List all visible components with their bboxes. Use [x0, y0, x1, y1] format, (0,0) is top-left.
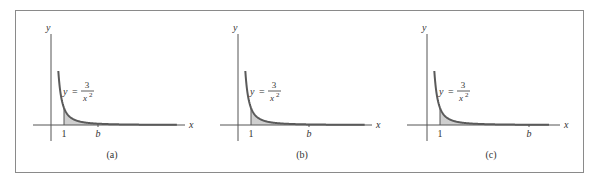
- y-axis-label: y: [421, 22, 427, 33]
- y-axis-label: y: [45, 22, 51, 33]
- equation-y: y: [438, 86, 444, 97]
- equation-exponent: 2: [465, 91, 469, 99]
- tick-label-1: 1: [62, 128, 67, 139]
- y-axis-label: y: [232, 22, 238, 33]
- equation-numerator: 3: [272, 80, 277, 90]
- panel-caption: (b): [296, 149, 308, 161]
- equation-numerator: 3: [461, 80, 466, 90]
- x-axis-label: x: [563, 119, 569, 130]
- tick-label-1: 1: [249, 128, 254, 139]
- equation-denominator: x: [458, 93, 463, 103]
- tick-label-b: b: [527, 128, 532, 139]
- shaded-area: [440, 108, 529, 125]
- curve-3-over-x-squared: [434, 71, 549, 125]
- x-axis-label: x: [375, 119, 381, 130]
- tick-label-b: b: [307, 128, 312, 139]
- panel-b: yx1by=3x2(b): [220, 22, 381, 161]
- panel-caption: (a): [106, 149, 117, 161]
- equation-equals: =: [72, 86, 78, 97]
- equation-equals: =: [448, 86, 454, 97]
- panel-a: yx1by=3x2(a): [33, 22, 194, 161]
- equation-denominator: x: [82, 93, 87, 103]
- curve-3-over-x-squared: [58, 71, 177, 125]
- figure-canvas: yx1by=3x2(a) yx1by=3x2(b) yx1by=3x2(c): [0, 0, 598, 181]
- x-axis-label: x: [188, 119, 194, 130]
- tick-label-b: b: [96, 128, 101, 139]
- equation-equals: =: [259, 86, 265, 97]
- panel-c: yx1by=3x2(c): [407, 22, 569, 161]
- equation-exponent: 2: [89, 91, 93, 99]
- equation-denominator: x: [269, 93, 274, 103]
- tick-label-1: 1: [438, 128, 443, 139]
- equation-y: y: [249, 86, 255, 97]
- equation-numerator: 3: [85, 80, 90, 90]
- panel-caption: (c): [485, 149, 496, 161]
- curve-3-over-x-squared: [245, 71, 364, 125]
- equation-y: y: [62, 86, 68, 97]
- equation-exponent: 2: [276, 91, 280, 99]
